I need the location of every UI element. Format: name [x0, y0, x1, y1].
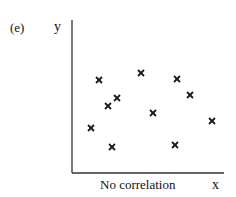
axes [72, 20, 224, 173]
x-marker-icon [105, 103, 111, 109]
x-marker-icon [114, 95, 120, 101]
x-marker-icon [150, 110, 156, 116]
x-marker-icon [174, 76, 180, 82]
scatter-plot [0, 0, 236, 197]
x-marker-icon [138, 70, 144, 76]
x-marker-icon [96, 77, 102, 83]
data-markers [88, 70, 215, 150]
x-marker-icon [88, 125, 94, 131]
x-marker-icon [172, 142, 178, 148]
x-marker-icon [209, 118, 215, 124]
x-marker-icon [109, 144, 115, 150]
x-marker-icon [187, 92, 193, 98]
